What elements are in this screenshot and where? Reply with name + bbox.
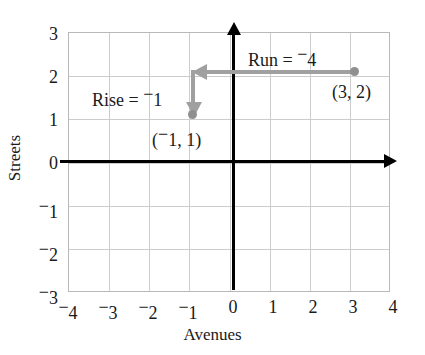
y-tick-label-0: 0 (24, 154, 58, 172)
y-tick-label-neg-2: −2 (24, 240, 58, 264)
y-tick-label-3: 3 (24, 25, 58, 43)
x-tick-label-1: 1 (258, 298, 288, 316)
gridline-horizontal (69, 249, 389, 250)
x-tick-label-neg-4: −4 (53, 298, 83, 322)
point-label-neg1-1: (−1, 1) (152, 124, 201, 151)
coordinate-plane-figure: 3 2 1 0 −1 −2 −3 −4 −3 −2 −1 0 1 2 3 4 A… (0, 0, 425, 355)
y-axis-arrow-icon (227, 22, 241, 35)
rise-annotation-label: Rise = −1 (92, 84, 162, 111)
gridline-horizontal (69, 163, 389, 164)
data-point-3-2 (350, 67, 359, 76)
x-axis-arrow-icon (384, 154, 397, 168)
x-axis-title: Avenues (0, 325, 425, 345)
x-tick-label-4: 4 (378, 298, 408, 316)
gridline-horizontal (69, 119, 389, 120)
run-annotation-label: Run = −4 (248, 44, 316, 71)
x-tick-label-2: 2 (298, 298, 328, 316)
y-tick-label-1: 1 (24, 111, 58, 129)
x-tick-label-0: 0 (218, 298, 248, 316)
y-tick-label-2: 2 (24, 68, 58, 86)
x-axis-line (60, 160, 388, 163)
y-tick-label-neg-1: −1 (24, 197, 58, 221)
y-axis-title: Streets (5, 113, 25, 203)
x-tick-label-neg-3: −3 (93, 298, 123, 322)
x-tick-label-neg-2: −2 (133, 298, 163, 322)
gridline-horizontal (69, 76, 389, 77)
x-tick-label-3: 3 (338, 298, 368, 316)
x-tick-label-neg-1: −1 (173, 298, 203, 322)
gridline-horizontal (69, 206, 389, 207)
data-point-neg1-1 (188, 110, 197, 119)
rise-arrow-shaft (191, 70, 195, 106)
point-label-3-2: (3, 2) (332, 82, 371, 103)
